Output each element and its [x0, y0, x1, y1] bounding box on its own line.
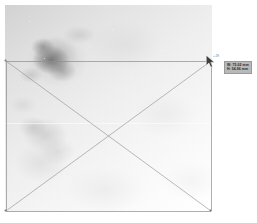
image-grain-layer [5, 5, 212, 212]
measurement-viewer: + 29 W: 75.02 mm H: 54.96 mm [0, 0, 257, 223]
image-scan-seam [5, 123, 212, 124]
tooltip-line-height: H: 54.96 mm [227, 67, 249, 71]
scanned-image[interactable] [5, 5, 212, 212]
dimension-tooltip: W: 75.02 mm H: 54.96 mm [224, 61, 252, 74]
arrow-cursor-icon [204, 54, 220, 70]
